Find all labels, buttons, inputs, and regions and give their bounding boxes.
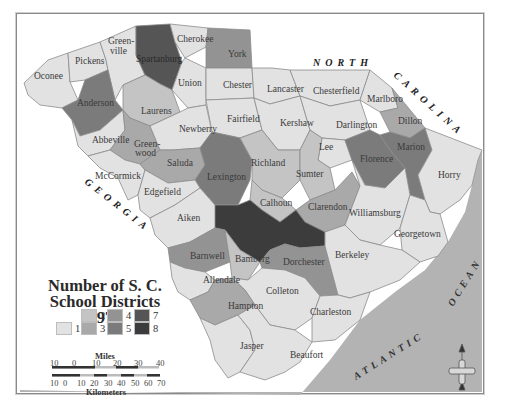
label-lexington: Lexington (207, 172, 246, 182)
label-darlington: Darlington (336, 120, 377, 130)
label-lee: Lee (319, 142, 333, 152)
legend-item-4: 4 (107, 309, 131, 322)
label-florence: Florence (360, 154, 393, 164)
label-anderson: Anderson (77, 98, 114, 108)
scale-km-tick: 70 (157, 378, 166, 388)
scale-km-tick: 10 (77, 378, 86, 388)
label-clarendon: Clarendon (308, 202, 348, 212)
sc-map: Oconee Pickens Green- ville Spartanburg … (0, 0, 510, 415)
legend-label-2: 2 (100, 310, 105, 321)
label-georgetown: Georgetown (394, 229, 441, 239)
label-williamsburg: Williamsburg (349, 208, 401, 218)
legend-swatch-3 (81, 322, 97, 335)
label-north: NORTH (312, 57, 373, 68)
label-newberry: Newberry (179, 124, 217, 134)
scale-km-tick: 60 (144, 378, 153, 388)
label-charleston: Charleston (310, 307, 351, 317)
label-cherokee: Cherokee (177, 34, 213, 44)
label-oconee: Oconee (34, 71, 63, 81)
scale-mile-tick: 10 (92, 358, 101, 368)
label-greenville-2: ville (110, 46, 127, 56)
label-barnwell: Barnwell (190, 251, 225, 261)
legend-item-2: 2 (81, 309, 105, 322)
label-berkeley: Berkeley (335, 250, 370, 260)
label-spartanburg: Spartanburg (136, 54, 183, 64)
label-dorchester: Dorchester (283, 257, 326, 267)
scale-mile-tick: 40 (156, 358, 165, 368)
label-richland: Richland (251, 158, 286, 168)
label-marlboro: Marlboro (367, 94, 403, 104)
label-york: York (228, 49, 247, 59)
label-calhoun: Calhoun (260, 198, 292, 208)
label-hampton: Hampton (228, 301, 264, 311)
legend-label-4: 4 (126, 310, 131, 321)
label-chesterfield: Chesterfield (313, 86, 360, 96)
legend-swatch-7 (134, 309, 150, 322)
label-mccormick: McCormick (95, 171, 141, 181)
legend-swatch-4 (107, 309, 123, 322)
legend-item-3: 3 (81, 322, 105, 335)
scale-mile-tick: 30 (134, 358, 143, 368)
label-bamberg: Bamberg (235, 254, 270, 264)
label-greenville-1: Green- (108, 36, 134, 46)
legend-label-7: 7 (153, 310, 158, 321)
label-marion: Marion (397, 142, 425, 152)
label-union: Union (178, 78, 202, 88)
scale-mile-tick: 0 (72, 358, 76, 368)
label-saluda: Saluda (167, 158, 194, 168)
legend-label-1: 1 (75, 323, 80, 334)
label-chester: Chester (223, 80, 253, 90)
scale-mile-tick: 20 (113, 358, 122, 368)
label-horry: Horry (438, 170, 461, 180)
label-fairfield: Fairfield (227, 114, 260, 124)
legend-swatch-1 (56, 322, 72, 335)
label-laurens: Laurens (141, 106, 172, 116)
scale-bar (52, 366, 160, 377)
label-edgefield: Edgefield (144, 187, 181, 197)
label-dillon: Dillon (398, 116, 423, 126)
legend-item-7: 7 (134, 309, 158, 322)
legend-swatch-8 (134, 322, 150, 335)
legend-item-1: 1 (56, 322, 80, 335)
legend-item-5: 5 (107, 322, 131, 335)
label-allendale: Allendale (203, 275, 240, 285)
label-lancaster: Lancaster (267, 84, 305, 94)
scale-km-tick: 50 (131, 378, 140, 388)
label-greenwood-2: wood (135, 148, 156, 158)
label-aiken: Aiken (177, 213, 200, 223)
label-kershaw: Kershaw (280, 118, 314, 128)
label-beaufort: Beaufort (290, 350, 324, 360)
scale-km-tick: 10 (50, 378, 59, 388)
legend-swatch-2 (81, 309, 97, 322)
legend-label-3: 3 (100, 323, 105, 334)
scale-mile-tick: 10 (50, 358, 59, 368)
legend-item-8: 8 (134, 322, 158, 335)
legend-label-5: 5 (126, 323, 131, 334)
label-jasper: Jasper (240, 341, 265, 351)
legend-label-8: 8 (153, 323, 158, 334)
scale-km-tick: 0 (63, 378, 67, 388)
label-abbeville: Abbeville (92, 135, 129, 145)
legend-swatch-5 (107, 322, 123, 335)
label-pickens: Pickens (75, 56, 105, 66)
label-colleton: Colleton (266, 286, 299, 296)
label-sumter: Sumter (296, 169, 324, 179)
scale-km-title: Kilometers (86, 387, 126, 397)
